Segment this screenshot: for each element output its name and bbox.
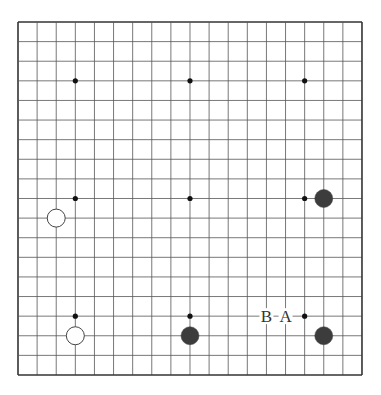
move-labels: BA <box>259 307 292 326</box>
star-point-icon <box>302 196 307 201</box>
move-label-a: A <box>279 307 292 326</box>
star-point-icon <box>302 78 307 83</box>
star-point-icon <box>302 314 307 319</box>
move-label-b: B <box>261 307 272 326</box>
star-point-icon <box>187 314 192 319</box>
star-point-icon <box>187 78 192 83</box>
star-point-icon <box>73 78 78 83</box>
go-board: BA <box>0 0 381 395</box>
star-point-icon <box>187 196 192 201</box>
black-stone-icon <box>315 189 333 207</box>
white-stone-icon <box>47 209 65 227</box>
star-point-icon <box>73 314 78 319</box>
black-stone-icon <box>181 327 199 345</box>
black-stone-icon <box>315 327 333 345</box>
white-stone-icon <box>66 327 84 345</box>
star-point-icon <box>73 196 78 201</box>
